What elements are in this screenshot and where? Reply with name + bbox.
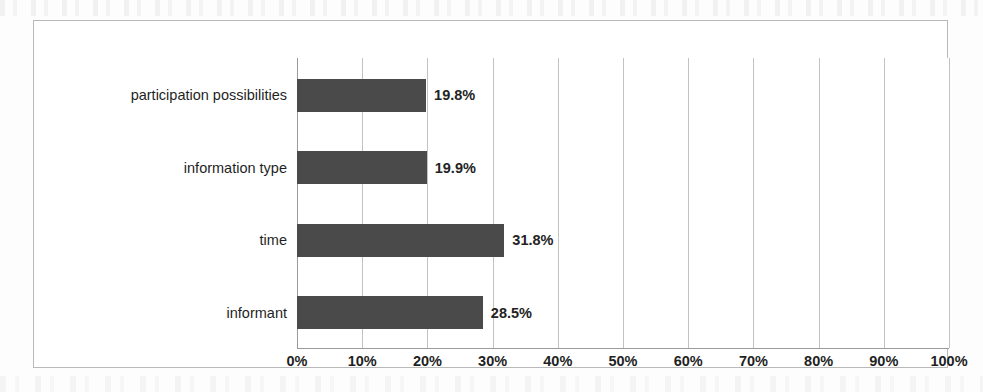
x-tick-label-0: 0% [287, 353, 308, 369]
x-tick-label-100: 100% [930, 353, 967, 369]
category-label: informant [47, 305, 287, 321]
x-tick-label-40: 40% [543, 353, 572, 369]
x-tick-label-10: 10% [348, 353, 377, 369]
category-label: participation possibilities [47, 87, 287, 103]
gridline-100 [949, 58, 950, 348]
x-tick-label-20: 20% [413, 353, 442, 369]
scan-bleed-top [0, 0, 983, 16]
x-tick-label-60: 60% [674, 353, 703, 369]
category-axis-labels: participation possibilitiesinformation t… [47, 58, 287, 348]
chart-page: participation possibilitiesinformation t… [0, 0, 983, 392]
category-label: information type [47, 160, 287, 176]
x-axis-tick-labels: 0%10%20%30%40%50%60%70%80%90%100% [297, 21, 949, 369]
x-tick-label-90: 90% [869, 353, 898, 369]
category-label: time [47, 232, 287, 248]
scan-bleed-bottom [0, 376, 983, 392]
x-tick-label-30: 30% [478, 353, 507, 369]
x-tick-label-70: 70% [739, 353, 768, 369]
chart-frame: participation possibilitiesinformation t… [33, 20, 948, 368]
x-tick-label-50: 50% [608, 353, 637, 369]
x-tick-label-80: 80% [804, 353, 833, 369]
